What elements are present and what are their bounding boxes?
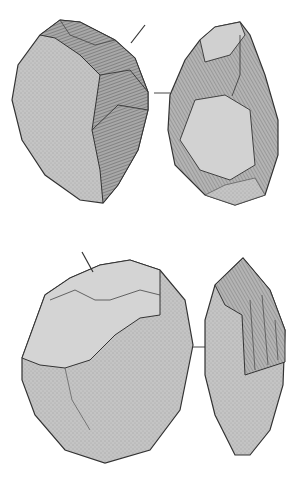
stone-tool-figure [0, 0, 305, 484]
arrow-indicator [131, 25, 145, 43]
artifact-2-front-view [22, 260, 193, 463]
arrow-indicator-2 [82, 252, 93, 272]
artifact-2-side-view [205, 258, 285, 455]
artifact-1-side-view [168, 22, 278, 205]
artifact-1-front-view [12, 20, 148, 203]
